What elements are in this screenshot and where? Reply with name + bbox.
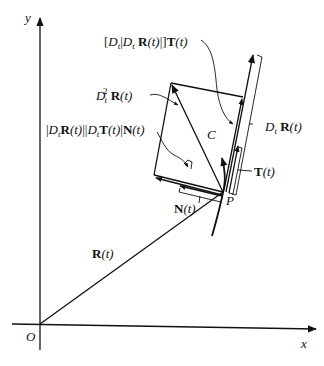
velocity-label: Dt R(t) [264,119,302,136]
velocity-vector [226,55,253,192]
tangential-label-leader [201,40,233,124]
unit-normal-vector [180,186,222,196]
acceleration-label-leader [150,94,178,105]
y-axis-label: y [23,10,31,25]
origin-label: O [26,329,36,344]
tangential-component-label: [Dt|Dt R(t)|]T(t) [104,34,188,51]
acceleration-label: Dt2 R(t) [95,86,132,105]
right-angle-marker [184,160,192,169]
normal-label-leader [157,132,188,167]
normal-component-label: |DtR(t)||DtT(t)|N(t) [46,122,145,139]
normal-component-vector [156,178,222,195]
unit-tangent-label: T(t) [254,164,275,179]
point-label: P [225,193,234,208]
position-vector-label: R(t) [92,246,114,261]
box-bottom-edge [154,175,223,192]
unit-normal-label: N(t) [174,201,196,216]
curve-label: C [207,127,216,142]
box-top-edge [171,83,243,97]
x-axis [12,324,316,329]
curve-c [212,158,225,236]
x-axis-label: x [300,336,307,351]
tangent-bracket [229,147,252,194]
diagram-canvas: y x O R(t) C P [Dt|Dt R(t)|]T(t) Dt2 R(t… [0,0,324,366]
